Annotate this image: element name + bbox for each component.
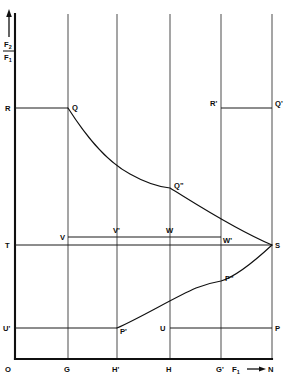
point-label-Qpp: Q" xyxy=(174,181,184,190)
point-label-R: R xyxy=(5,104,11,113)
point-label-Wp: W' xyxy=(223,236,232,245)
point-label-T: T xyxy=(5,241,10,250)
lower-curve xyxy=(117,245,272,328)
point-label-P: P xyxy=(275,324,280,333)
point-label-Qp: Q' xyxy=(275,99,283,108)
y-axis-denominator: F1 xyxy=(4,53,12,63)
y-axis-label: F2 F1 xyxy=(3,40,14,63)
point-label-Rp: R' xyxy=(210,99,217,108)
point-label-U: U xyxy=(160,324,166,333)
figure-container: F2 F1 F1 O G H' H G' N R Q R' Q' Q" V V' xyxy=(0,0,287,387)
y-axis-arrow-icon xyxy=(6,9,12,37)
point-label-Up: U' xyxy=(3,324,10,333)
point-label-S: S xyxy=(275,241,280,250)
point-label-V: V xyxy=(60,233,66,242)
x-axis-label-text: F1 xyxy=(232,365,240,375)
point-label-Q: Q xyxy=(72,103,78,112)
xtick-label-Hp: H' xyxy=(112,365,119,374)
xtick-label-O: O xyxy=(5,365,11,374)
xtick-label-Gp: G' xyxy=(216,365,224,374)
point-label-W: W xyxy=(166,226,174,235)
x-axis-label: F1 xyxy=(232,365,266,375)
point-label-Ppp: P" xyxy=(225,274,234,283)
point-label-Pp: P' xyxy=(120,327,127,336)
diagram-canvas: F2 F1 F1 O G H' H G' N R Q R' Q' Q" V V' xyxy=(0,0,287,387)
y-axis-numerator: F2 xyxy=(4,40,12,50)
xtick-label-H: H xyxy=(166,365,171,374)
xtick-label-N: N xyxy=(268,365,273,374)
point-label-Vp: V' xyxy=(113,226,120,235)
xtick-label-G: G xyxy=(64,365,70,374)
